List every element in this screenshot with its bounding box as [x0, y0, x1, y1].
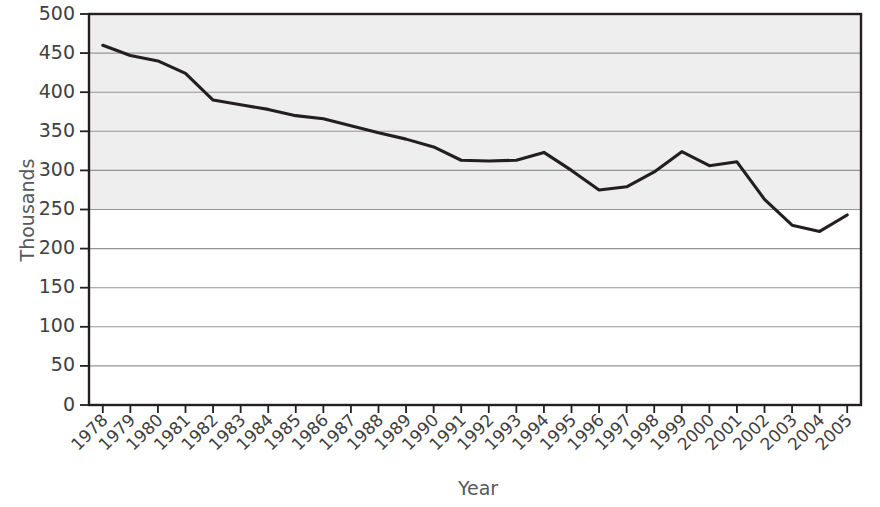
chart-canvas: 050100150200250300350400450500 197819791…	[0, 0, 880, 507]
y-tick-label: 250	[39, 197, 75, 219]
plot-background-lower	[89, 210, 861, 406]
x-axis: 1978197919801981198219831984198519861987…	[67, 405, 856, 454]
y-tick-label: 0	[63, 393, 75, 415]
y-tick-label: 300	[39, 158, 75, 180]
x-axis-title: Year	[457, 477, 498, 499]
y-tick-label: 100	[39, 314, 75, 336]
plot-background-upper	[89, 14, 861, 210]
y-tick-label: 400	[39, 80, 75, 102]
y-tick-label: 50	[51, 353, 75, 375]
line-chart: 050100150200250300350400450500 197819791…	[0, 0, 880, 507]
y-tick-label: 450	[39, 41, 75, 63]
y-tick-label: 350	[39, 119, 75, 141]
y-axis: 050100150200250300350400450500	[39, 2, 89, 415]
y-tick-label: 200	[39, 236, 75, 258]
y-tick-label: 150	[39, 275, 75, 297]
y-axis-title: Thousands	[16, 159, 38, 263]
y-tick-label: 500	[39, 2, 75, 24]
